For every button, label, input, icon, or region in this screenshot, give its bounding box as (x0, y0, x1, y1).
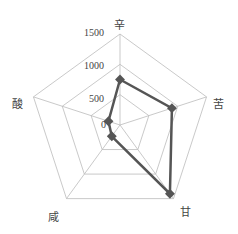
series-line (108, 80, 171, 194)
axis-label-xian: 咸 (48, 208, 59, 224)
tick-1500: 1500 (84, 27, 104, 38)
axis-label-xin: 辛 (114, 16, 125, 32)
data-point-marker (115, 75, 125, 85)
tick-0: 0 (101, 119, 106, 130)
axis-label-gan: 甘 (180, 203, 191, 219)
axis-label-ku: 苦 (213, 95, 224, 111)
tick-1000: 1000 (84, 60, 104, 71)
tick-500: 500 (89, 93, 104, 104)
radar-chart (0, 0, 238, 234)
axis-label-suan: 酸 (12, 95, 23, 111)
axis-spoke (120, 97, 207, 125)
